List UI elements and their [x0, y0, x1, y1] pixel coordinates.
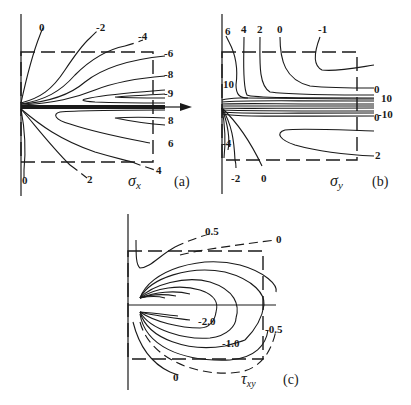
contour-a-m9-inner — [115, 94, 165, 98]
label-a-0-top: 0 — [39, 21, 45, 33]
label-a-4: 4 — [156, 164, 162, 176]
contour-b-m10 — [222, 112, 374, 113]
panel-b-caption: (b) — [372, 174, 389, 190]
contour-b-m1 — [315, 37, 374, 71]
label-b-10-left: 10 — [223, 78, 235, 90]
label-c-0-bottom: 0 — [173, 371, 179, 383]
panel-b-symbol: σy — [330, 172, 343, 191]
label-b-2-right: 2 — [375, 149, 381, 161]
label-c-m2p0: -2.0 — [198, 315, 216, 327]
contour-a-8 — [115, 117, 165, 125]
label-b-m10-right: -10 — [378, 108, 393, 120]
label-b-4: 4 — [241, 23, 247, 35]
label-c-m0p5: -0.5 — [265, 323, 283, 335]
panel-b-sigma-y: 6 4 2 0 -1 10 0 10 -10 0 2 -4 -2 0 σy (b… — [222, 14, 393, 194]
contour-a-m6 — [21, 56, 165, 104]
label-b-0-right-top: 0 — [374, 83, 380, 95]
label-c-0p5: 0.5 — [205, 225, 219, 237]
label-b-0-right-bottom: 0 — [374, 111, 380, 123]
contour-b-4 — [244, 37, 374, 98]
stress-contour-figure: 0 -2 -4 -6 -8 -9 8 6 4 2 0 σx (a) — [0, 0, 411, 405]
panel-a-arrow-icon — [180, 103, 192, 111]
label-a-m8: -8 — [164, 68, 174, 80]
label-b-10-right: 10 — [381, 92, 393, 104]
label-b-m4: -4 — [222, 137, 232, 149]
panel-c-symbol: τxy — [241, 370, 256, 389]
contour-c-lower-3 — [140, 312, 236, 338]
panel-a-sigma-x: 0 -2 -4 -6 -8 -9 8 6 4 2 0 σx (a) — [21, 14, 192, 196]
contour-a-0-top — [21, 35, 40, 103]
panel-a-symbol: σx — [128, 172, 141, 191]
label-c-0-top: 0 — [276, 233, 282, 245]
panel-c-tau-xy: 0.5 0 -2.0 -1.0 -0.5 0 τxy (c) — [128, 214, 299, 390]
contour-a-2 — [21, 109, 70, 165]
contour-b-0-bottom — [222, 114, 374, 116]
label-a-m6: -6 — [164, 47, 174, 59]
label-b-m1: -1 — [318, 23, 327, 35]
label-c-m1p0: -1.0 — [222, 337, 240, 349]
label-a-6: 6 — [168, 137, 174, 149]
label-b-0-bottom: 0 — [261, 172, 267, 184]
label-b-m2: -2 — [231, 172, 241, 184]
contour-a-6 — [56, 110, 165, 143]
contour-b-2-lower — [280, 129, 374, 156]
label-a-0-bottom: 0 — [22, 174, 28, 186]
label-a-8: 8 — [168, 114, 174, 126]
label-a-m4: -4 — [138, 30, 148, 42]
contour-c-upper-3 — [140, 280, 237, 318]
contour-c-upper-4 — [140, 287, 217, 312]
panel-a-caption: (a) — [174, 174, 190, 190]
label-a-2: 2 — [87, 173, 93, 185]
label-a-m2: -2 — [96, 21, 106, 33]
label-b-2: 2 — [257, 23, 263, 35]
contour-b-0-top — [280, 37, 374, 88]
panel-c-caption: (c) — [283, 372, 299, 388]
label-b-6: 6 — [225, 25, 231, 37]
label-a-m9: -9 — [164, 87, 174, 99]
contour-c-0-top — [180, 240, 275, 255]
label-b-0: 0 — [277, 23, 283, 35]
contour-c-0p5 — [136, 240, 175, 268]
